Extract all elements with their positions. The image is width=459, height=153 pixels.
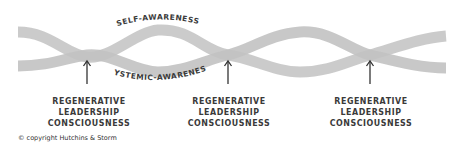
label-line: LEADERSHIP — [319, 107, 423, 118]
crossing-label-1: REGENERATIVE LEADERSHIP CONSCIOUSNESS — [37, 96, 141, 129]
label-line: LEADERSHIP — [37, 107, 141, 118]
label-line: REGENERATIVE — [37, 96, 141, 107]
label-line: CONSCIOUSNESS — [319, 118, 423, 129]
label-line: REGENERATIVE — [177, 96, 281, 107]
label-line: REGENERATIVE — [319, 96, 423, 107]
label-line: LEADERSHIP — [177, 107, 281, 118]
arrow-up-icon — [367, 61, 374, 84]
crossing-label-2: REGENERATIVE LEADERSHIP CONSCIOUSNESS — [177, 96, 281, 129]
intertwined-waves-diagram: SELF-AWARENESS SYSTEMIC-AWARENESS — [0, 0, 459, 153]
copyright-notice: © copyright Hutchins & Storm — [18, 134, 117, 142]
crossing-label-3: REGENERATIVE LEADERSHIP CONSCIOUSNESS — [319, 96, 423, 129]
arrow-up-icon — [225, 61, 232, 84]
label-line: CONSCIOUSNESS — [177, 118, 281, 129]
label-line: CONSCIOUSNESS — [37, 118, 141, 129]
arrow-up-icon — [84, 61, 91, 84]
